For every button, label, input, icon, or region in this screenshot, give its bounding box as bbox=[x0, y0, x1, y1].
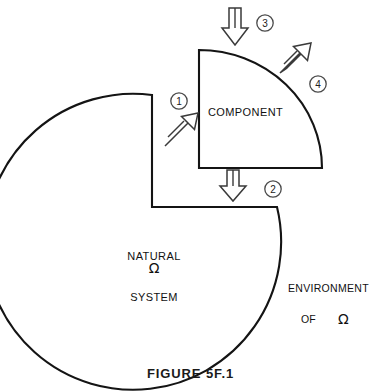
figure-caption: FIGURE 5F.1 bbox=[0, 366, 381, 381]
environment-of-row: OFΩ bbox=[288, 298, 349, 342]
flow-badge-4-label: 4 bbox=[315, 79, 321, 90]
flow-arrow-2 bbox=[220, 170, 246, 201]
environment-label: ENVIRONMENT bbox=[288, 282, 369, 295]
flow-badge-3-label: 3 bbox=[262, 18, 268, 29]
flow-badge-1: 1 bbox=[171, 93, 187, 109]
flow-arrow-1 bbox=[165, 113, 198, 146]
figure-container: 1 2 3 4 COMPONENT NATURAL SYSTEM Ω ENVIR… bbox=[0, 0, 381, 392]
flow-badge-4: 4 bbox=[310, 76, 326, 92]
flow-badge-2-label: 2 bbox=[270, 184, 276, 195]
environment-of-text: OF bbox=[301, 313, 316, 325]
flow-badge-2: 2 bbox=[265, 181, 281, 197]
natural-system-label-line2: SYSTEM bbox=[110, 291, 198, 305]
component-label: COMPONENT bbox=[208, 106, 283, 120]
flow-arrow-3 bbox=[222, 8, 248, 45]
flow-arrow-4 bbox=[280, 43, 311, 73]
environment-omega-symbol: Ω bbox=[338, 311, 349, 329]
natural-system-omega-symbol: Ω bbox=[110, 260, 198, 278]
flow-badge-1-label: 1 bbox=[176, 96, 182, 107]
flow-badge-3: 3 bbox=[257, 15, 273, 31]
